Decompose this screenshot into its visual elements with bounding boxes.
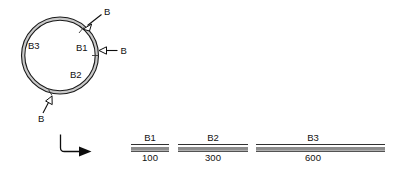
flow-arrow-head	[79, 146, 92, 156]
fragment-b2: B2 300	[178, 132, 248, 163]
cut-site-right: B	[99, 45, 127, 56]
cut-label-right: B	[121, 45, 127, 56]
fragment-size-b1: 100	[142, 152, 158, 163]
cut-label-bottom: B	[38, 113, 44, 124]
cut-arrowhead-bottom	[46, 96, 53, 105]
digestion-flow-arrow	[61, 135, 92, 157]
segment-label-b3: B3	[28, 40, 40, 51]
circular-plasmid-map: B3 B1 B2 B B B	[22, 6, 127, 124]
cut-label-top-right: B	[104, 6, 110, 17]
fragment-name-b2: B2	[207, 132, 219, 143]
cut-site-bottom: B	[38, 96, 52, 124]
figure-root: B3 B1 B2 B B B	[0, 0, 401, 175]
fragment-name-b1: B1	[144, 132, 156, 143]
cut-site-top-right: B	[83, 6, 110, 31]
linear-fragment-ladder: B1 100 B2 300 B3	[131, 132, 385, 163]
cut-arrowhead-right	[99, 47, 107, 54]
fragment-name-b3: B3	[307, 132, 319, 143]
cut-pointer-line-bottom	[43, 102, 49, 114]
cut-pointer-line-top-right	[88, 15, 102, 26]
fragment-size-b2: 300	[205, 152, 221, 163]
plasmid-digest-figure: B3 B1 B2 B B B	[0, 0, 401, 175]
fragment-size-b3: 600	[305, 152, 321, 163]
segment-label-b1: B1	[76, 42, 88, 53]
fragment-b1: B1 100	[131, 132, 169, 163]
flow-arrow-shaft	[61, 135, 81, 152]
fragment-b3: B3 600	[256, 132, 385, 163]
plasmid-ring-inner	[25, 20, 95, 90]
segment-label-b2: B2	[70, 69, 82, 80]
